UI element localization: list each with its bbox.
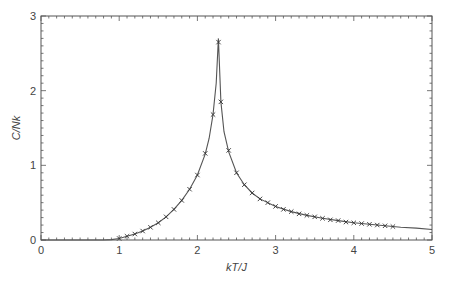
data-series	[41, 38, 432, 240]
x-tick-label: 3	[273, 244, 279, 256]
x-tick-label: 2	[194, 244, 200, 256]
heat-capacity-chart: 0123450123 kT/J C/Nk	[0, 0, 449, 283]
tick-labels: 0123450123	[30, 10, 435, 256]
x-marker-icon	[156, 221, 160, 225]
axis-ticks	[41, 16, 432, 240]
x-tick-label: 1	[116, 244, 122, 256]
marker-series	[117, 40, 395, 241]
x-marker-icon	[250, 191, 254, 195]
x-tick-label: 4	[351, 244, 357, 256]
x-marker-icon	[242, 183, 246, 187]
x-marker-icon	[164, 215, 168, 219]
y-tick-label: 2	[30, 85, 36, 97]
y-tick-label: 1	[30, 159, 36, 171]
x-marker-icon	[266, 200, 270, 204]
x-marker-icon	[187, 187, 191, 191]
x-marker-icon	[148, 225, 152, 229]
y-axis-label: C/Nk	[10, 115, 22, 140]
y-tick-label: 0	[30, 234, 36, 246]
x-marker-icon	[172, 207, 176, 211]
x-tick-label: 0	[38, 244, 44, 256]
plot-frame	[41, 16, 432, 240]
x-marker-icon	[258, 197, 262, 201]
x-marker-icon	[180, 198, 184, 202]
y-tick-label: 3	[30, 10, 36, 22]
x-tick-label: 5	[429, 244, 435, 256]
curve-line	[41, 38, 432, 240]
x-axis-label: kT/J	[226, 261, 247, 273]
